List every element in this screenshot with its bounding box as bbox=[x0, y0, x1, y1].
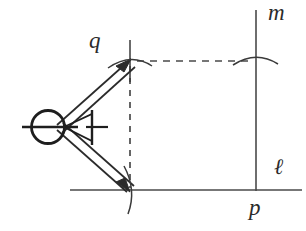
compass-pivot-symbol bbox=[22, 111, 78, 144]
label-p: p bbox=[249, 196, 261, 219]
compass-arm-lower bbox=[57, 123, 134, 192]
label-m: m bbox=[268, 1, 285, 24]
label-l: ℓ bbox=[274, 156, 283, 178]
label-q: q bbox=[89, 29, 101, 52]
figure-canvas: q m ℓ p bbox=[0, 0, 306, 231]
compass-arm-upper bbox=[57, 59, 135, 133]
